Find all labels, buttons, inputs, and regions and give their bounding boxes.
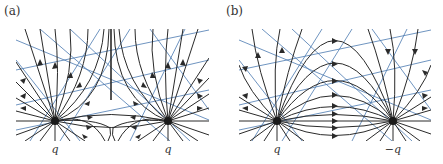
panel-b: (b) bbox=[222, 0, 443, 164]
panel-a-field-lines bbox=[16, 29, 209, 141]
charge-a-left bbox=[51, 117, 59, 125]
charge-a-left-label: q bbox=[51, 143, 58, 156]
charge-b-negative-label: −q bbox=[385, 143, 401, 156]
charge-b-positive bbox=[273, 117, 281, 125]
charge-b-positive-label: q bbox=[273, 143, 280, 156]
charge-a-right-label: q bbox=[164, 143, 171, 156]
charge-b-negative bbox=[389, 117, 397, 125]
panel-b-field-diagram bbox=[222, 0, 443, 164]
charge-a-right bbox=[164, 117, 172, 125]
panel-b-field-lines bbox=[239, 29, 431, 141]
panel-a: (a) bbox=[0, 0, 221, 164]
panel-a-field-diagram bbox=[0, 0, 221, 164]
